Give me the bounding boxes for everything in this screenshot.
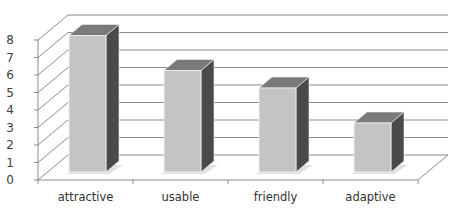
y-tick-label: 5 xyxy=(6,86,14,100)
bar-adaptive xyxy=(351,112,408,174)
y-tick-label: 4 xyxy=(6,103,14,117)
bar-front-face xyxy=(259,88,296,172)
bar-usable xyxy=(161,60,218,175)
bar-attractive xyxy=(66,25,123,175)
bars xyxy=(66,25,408,175)
bar-front-face xyxy=(69,36,106,173)
y-axis-tick-labels: 012345678 xyxy=(6,33,14,187)
y-tick-label: 2 xyxy=(6,138,14,152)
y-tick-label: 8 xyxy=(6,33,14,47)
y-tick-label: 6 xyxy=(6,68,14,82)
bar-side-face xyxy=(296,77,309,172)
x-category-label: attractive xyxy=(58,190,114,204)
y-tick-label: 1 xyxy=(6,156,14,170)
bar-front-face xyxy=(354,123,391,172)
floor-right-edge xyxy=(418,155,448,180)
x-category-label: friendly xyxy=(254,190,298,204)
bar-front-face xyxy=(164,71,201,173)
bar-friendly xyxy=(256,77,313,174)
bar-side-face xyxy=(106,25,119,173)
y-tick-label: 0 xyxy=(6,173,14,187)
bar-chart-3d: 012345678 attractiveusablefriendlyadapti… xyxy=(0,0,461,215)
x-axis-category-labels: attractiveusablefriendlyadaptive xyxy=(58,190,396,204)
x-category-label: adaptive xyxy=(345,190,395,204)
bar-side-face xyxy=(201,60,214,173)
y-tick-label: 7 xyxy=(6,51,14,65)
y-tick-label: 3 xyxy=(6,121,14,135)
x-category-label: usable xyxy=(162,190,200,204)
